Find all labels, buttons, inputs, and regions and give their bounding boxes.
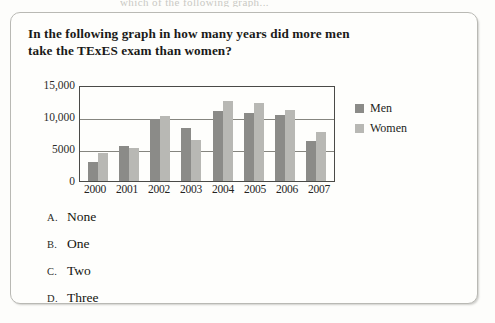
answer-option-c[interactable]: C.Two <box>47 263 347 279</box>
y-tick-label: 10,000 <box>43 112 75 123</box>
bar-men-2000 <box>88 162 98 181</box>
answer-label: None <box>67 209 96 225</box>
bar-women-2005 <box>254 103 264 181</box>
bars-layer <box>80 87 334 181</box>
question-text: In the following graph in how many years… <box>28 25 358 59</box>
bar-men-2001 <box>119 146 129 181</box>
bar-group <box>150 87 170 181</box>
answer-option-a[interactable]: A.None <box>47 209 347 225</box>
bar-women-2001 <box>129 148 139 181</box>
answer-letter: A. <box>47 212 67 223</box>
y-axis: 0500010,00015,000 <box>25 75 75 175</box>
bar-men-2002 <box>150 119 160 181</box>
cropped-top-text: which of the following graph... <box>120 0 420 7</box>
bar-men-2004 <box>213 111 223 181</box>
y-tick-label: 0 <box>69 176 75 187</box>
legend-item-men: Men <box>355 101 407 116</box>
bar-group <box>213 87 233 181</box>
chart-legend: MenWomen <box>355 101 407 141</box>
plot-area <box>79 86 335 182</box>
x-tick-label: 2007 <box>308 183 330 195</box>
bar-men-2005 <box>244 113 254 181</box>
x-tick-label: 2000 <box>84 183 106 195</box>
bar-women-2002 <box>160 116 170 181</box>
bar-women-2000 <box>98 153 108 181</box>
y-tick-label: 15,000 <box>43 80 75 91</box>
x-tick-label: 2006 <box>276 183 298 195</box>
answer-letter: B. <box>47 239 67 250</box>
answer-letter: C. <box>47 266 67 277</box>
bar-group <box>119 87 139 181</box>
legend-label: Men <box>370 101 392 116</box>
answer-options-list: A.NoneB.OneC.TwoD.Three <box>47 209 347 317</box>
bar-men-2003 <box>181 128 191 181</box>
bar-women-2006 <box>285 110 295 181</box>
legend-item-women: Women <box>355 121 407 136</box>
answer-label: Two <box>67 263 91 279</box>
x-tick-label: 2004 <box>212 183 234 195</box>
bar-women-2003 <box>191 140 201 181</box>
legend-swatch-icon <box>355 104 364 113</box>
legend-label: Women <box>370 121 407 136</box>
bar-women-2004 <box>223 101 233 181</box>
legend-swatch-icon <box>355 124 364 133</box>
answer-option-b[interactable]: B.One <box>47 236 347 252</box>
answer-label: One <box>67 236 90 252</box>
answer-label: Three <box>67 290 98 306</box>
x-tick-label: 2001 <box>116 183 138 195</box>
bar-chart: 0500010,00015,000 2000200120022003200420… <box>25 75 445 197</box>
x-tick-label: 2002 <box>148 183 170 195</box>
bar-group <box>275 87 295 181</box>
bar-men-2006 <box>275 115 285 181</box>
bar-group <box>244 87 264 181</box>
x-tick-label: 2003 <box>180 183 202 195</box>
x-tick-label: 2005 <box>244 183 266 195</box>
y-tick-label: 5000 <box>52 144 75 155</box>
bar-men-2007 <box>306 141 316 181</box>
answer-option-d[interactable]: D.Three <box>47 290 347 306</box>
question-card: In the following graph in how many years… <box>10 12 478 304</box>
bar-group <box>88 87 108 181</box>
bar-group <box>181 87 201 181</box>
bar-group <box>306 87 326 181</box>
answer-letter: D. <box>47 293 67 304</box>
bar-women-2007 <box>316 132 326 181</box>
x-axis: 20002001200220032004200520062007 <box>79 183 335 195</box>
